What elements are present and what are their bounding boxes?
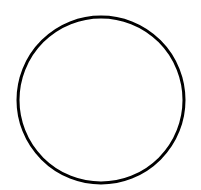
circle-shape [18,17,184,183]
diagram-canvas [0,0,201,190]
